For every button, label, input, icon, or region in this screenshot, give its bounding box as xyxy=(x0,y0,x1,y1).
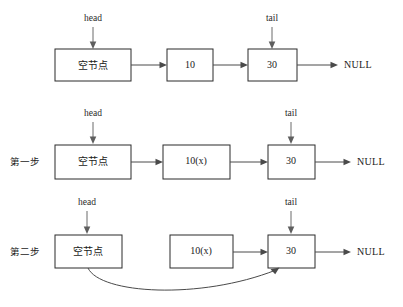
pointer-arrowhead-tail-row1 xyxy=(269,42,276,50)
curved-link-empty-to-30-row3 xyxy=(88,268,276,290)
node-label-10x-row3: 10(x) xyxy=(190,245,212,257)
pointer-label-head-row2: head xyxy=(84,108,102,118)
pointer-label-head-row3: head xyxy=(78,197,96,207)
link-arrowhead-empty-to-10-row1 xyxy=(160,62,168,69)
node-label-empty-row3: 空节点 xyxy=(73,245,103,257)
diagram-root: head tail 空节点 10 30 NUL xyxy=(0,0,403,307)
link-arrowhead-10x-to-30-row3 xyxy=(261,249,269,256)
null-terminator-row1: NULL xyxy=(344,59,372,70)
node-label-empty-row2: 空节点 xyxy=(78,155,108,167)
pointer-arrowhead-tail-row2 xyxy=(288,137,295,145)
pointer-arrowhead-tail-row3 xyxy=(288,227,295,235)
null-terminator-row2: NULL xyxy=(357,156,385,167)
link-arrowhead-30-to-null-row3 xyxy=(344,249,352,256)
pointer-label-tail-row2: tail xyxy=(285,108,297,118)
pointer-label-tail-row1: tail xyxy=(266,13,278,23)
diagram-row-2: 第一步 head tail 空节点 10(x) 30 xyxy=(10,108,385,179)
node-label-10x-row2: 10(x) xyxy=(185,155,207,167)
link-arrowhead-empty-to-10x-row2 xyxy=(156,159,164,166)
node-label-empty-row1: 空节点 xyxy=(78,59,108,71)
node-label-30-row2: 30 xyxy=(286,155,296,166)
linked-list-diagram: head tail 空节点 10 30 NUL xyxy=(0,0,403,307)
node-label-10-row1: 10 xyxy=(185,59,195,70)
link-arrowhead-10x-to-30-row2 xyxy=(261,159,269,166)
link-arrowhead-10-to-30-row1 xyxy=(241,62,249,69)
step-label-row2: 第一步 xyxy=(10,156,40,167)
null-terminator-row3: NULL xyxy=(357,246,385,257)
pointer-label-head-row1: head xyxy=(84,13,102,23)
pointer-label-tail-row3: tail xyxy=(285,197,297,207)
pointer-arrowhead-head-row2 xyxy=(90,137,97,145)
pointer-arrowhead-head-row3 xyxy=(84,227,91,235)
pointer-arrowhead-head-row1 xyxy=(90,42,97,50)
link-arrowhead-30-to-null-row2 xyxy=(344,159,352,166)
step-label-row3: 第二步 xyxy=(10,246,40,257)
diagram-row-1: head tail 空节点 10 30 NUL xyxy=(55,13,372,81)
node-label-30-row1: 30 xyxy=(267,59,277,70)
diagram-row-3: 第二步 head tail 空节点 10(x) 30 NULL xyxy=(10,197,385,290)
link-arrowhead-30-to-null-row1 xyxy=(331,62,339,69)
curved-link-arrowhead-row3 xyxy=(271,268,280,275)
node-label-30-row3: 30 xyxy=(286,245,296,256)
